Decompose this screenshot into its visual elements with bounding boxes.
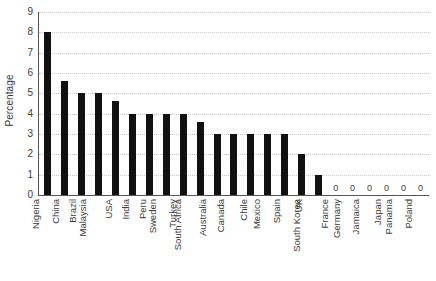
- bar: [230, 134, 237, 195]
- x-axis-tick-label: Australia: [198, 199, 208, 236]
- bar-value-label: 0: [401, 184, 406, 193]
- plot-area: 000000: [38, 12, 429, 196]
- y-axis-tick-label: 3: [27, 129, 33, 139]
- x-axis-tick-label: India: [121, 199, 131, 220]
- bar-slot: 0: [395, 12, 412, 195]
- bar-slot: [192, 12, 209, 195]
- x-axis-tick-label: Sweden: [148, 199, 158, 233]
- y-axis-tick-label: 1: [27, 170, 33, 180]
- bar: [264, 134, 271, 195]
- bar: [44, 32, 51, 195]
- bar-slot: 0: [361, 12, 378, 195]
- bar: [197, 122, 204, 195]
- bar: [61, 81, 68, 195]
- bar-slot: [259, 12, 276, 195]
- bar: [247, 134, 254, 195]
- y-axis-tick-label: 7: [27, 48, 33, 58]
- bar-slot: [56, 12, 73, 195]
- x-axis-tick-slot: Poland: [411, 197, 428, 281]
- bar-slot: 0: [412, 12, 429, 195]
- bar: [112, 101, 119, 195]
- bar-value-label: 0: [367, 184, 372, 193]
- x-axis-tick-label: South Africa: [173, 199, 183, 250]
- bar: [163, 114, 170, 195]
- bar-slot: [225, 12, 242, 195]
- bar-value-label: 0: [384, 184, 389, 193]
- y-axis-title-text: Percentage: [4, 74, 15, 126]
- bar-slot: [175, 12, 192, 195]
- bar: [129, 114, 136, 195]
- x-axis-tick-labels: NigeriaChinaBrazilMalaysiaUSAIndiaPeruSw…: [38, 197, 428, 281]
- bar-slot: 0: [344, 12, 361, 195]
- x-axis-tick-label: France: [320, 199, 330, 229]
- x-axis-tick-label: Poland: [405, 199, 415, 229]
- bar: [78, 93, 85, 195]
- y-axis-tick-label: 2: [27, 149, 33, 159]
- bar: [281, 134, 288, 195]
- x-axis-tick-label: China: [51, 199, 61, 224]
- bar-slot: 0: [327, 12, 344, 195]
- bar-slot: [39, 12, 56, 195]
- x-axis-tick-label: Panama: [385, 199, 395, 234]
- bar-slot: [242, 12, 259, 195]
- x-axis-tick-label: Chile: [239, 199, 249, 221]
- bar-value-label: 0: [333, 184, 338, 193]
- x-axis-tick-label: Japan: [373, 199, 383, 225]
- y-axis-tick-label: 9: [27, 7, 33, 17]
- bar-slot: [107, 12, 124, 195]
- bar: [180, 114, 187, 195]
- x-axis-tick-label: Jamaica: [351, 199, 361, 234]
- x-axis-tick-label: Germany: [332, 199, 342, 238]
- y-axis-tick-label: 8: [27, 27, 33, 37]
- bar-slot: [124, 12, 141, 195]
- bar-slot: [310, 12, 327, 195]
- bar-slot: [209, 12, 226, 195]
- y-axis-tick-labels: 0123456789: [18, 12, 36, 195]
- x-axis-tick-label: USA: [105, 199, 115, 219]
- bar: [146, 114, 153, 195]
- bar-slot: [141, 12, 158, 195]
- x-axis-tick-label: Canada: [216, 199, 226, 232]
- x-axis-tick-label: Nigeria: [31, 199, 41, 229]
- x-axis-tick-label: Spain: [272, 199, 282, 223]
- bar-slot: [158, 12, 175, 195]
- y-axis-tick-label: 4: [27, 109, 33, 119]
- bar: [95, 93, 102, 195]
- bar: [298, 154, 305, 195]
- x-axis-tick-label: South Korea: [291, 199, 301, 252]
- bar-value-label: 0: [350, 184, 355, 193]
- bar-slot: [73, 12, 90, 195]
- x-axis-tick-label: Mexico: [252, 199, 262, 229]
- y-axis-tick-label: 5: [27, 88, 33, 98]
- y-axis-title: Percentage: [0, 0, 18, 200]
- bar: [315, 175, 322, 195]
- y-axis-tick-label: 6: [27, 68, 33, 78]
- bar: [214, 134, 221, 195]
- bar-slot: [276, 12, 293, 195]
- bar-chart: Percentage 0123456789 000000 NigeriaChin…: [0, 0, 436, 281]
- bar-value-label: 0: [418, 184, 423, 193]
- bar-slot: [293, 12, 310, 195]
- x-axis-tick-label: Malaysia: [79, 199, 89, 237]
- bars-layer: 000000: [39, 12, 429, 195]
- bar-slot: 0: [378, 12, 395, 195]
- bar-slot: [90, 12, 107, 195]
